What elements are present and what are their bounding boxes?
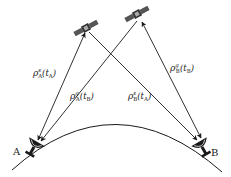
range-label-sA: ρsA(tA) (33, 69, 56, 78)
range-line-gB (142, 22, 201, 138)
station-b-label: B (211, 148, 218, 158)
range-line-gA (41, 21, 137, 141)
range-line-sA (38, 33, 85, 140)
range-line-sB (89, 32, 197, 140)
ranging-diagram (0, 0, 231, 177)
satellite-icon (124, 5, 150, 23)
satellite-icon (73, 19, 99, 37)
range-label-gA: ρgA(tB) (70, 92, 94, 101)
range-label-sB: ρsB(tA) (128, 92, 151, 101)
earth-surface-arc (12, 124, 222, 172)
range-label-gB: ρgB(tB) (170, 64, 194, 73)
station-a-label: A (13, 147, 20, 157)
